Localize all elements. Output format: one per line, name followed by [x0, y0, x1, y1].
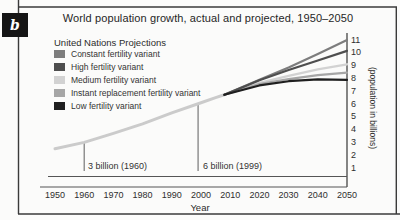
legend-swatch-icon	[54, 76, 65, 84]
legend-item-label: Medium fertility variant	[71, 75, 156, 85]
x-axis-title: Year	[170, 202, 230, 213]
y-tick-label: 8	[351, 73, 356, 83]
y-tick-label: 6	[351, 99, 356, 109]
y-tick-label: 7	[351, 86, 356, 96]
series-line-2	[224, 51, 347, 95]
legend-item-label: Constant fertility variant	[71, 49, 160, 59]
legend-item-high-fertility: High fertility variant	[54, 62, 143, 71]
legend-swatch-icon	[54, 63, 65, 71]
legend-item-constant-fertility: Constant fertility variant	[54, 49, 160, 58]
y-tick-label: 4	[351, 124, 356, 134]
y-axis-title: (population in billions)	[368, 33, 378, 183]
legend-item-low-fertility: Low fertility variant	[54, 101, 141, 110]
legend-item-medium-fertility: Medium fertility variant	[54, 75, 156, 84]
y-tick-label: 10	[351, 47, 361, 57]
legend-item-label: High fertility variant	[71, 62, 143, 72]
legend-title: United Nations Projections	[54, 37, 166, 48]
y-tick-label: 1	[351, 163, 356, 173]
y-tick-label: 2	[351, 150, 356, 160]
figure-panel: b World population growth, actual and pr…	[0, 0, 400, 220]
y-tick-label: 5	[351, 111, 356, 121]
legend-item-label: Instant replacement fertility variant	[71, 88, 200, 98]
legend-swatch-icon	[54, 102, 65, 110]
y-tick-label: 9	[351, 60, 356, 70]
x-tick-label: 2050	[330, 190, 364, 200]
chart-canvas	[0, 0, 400, 220]
legend-swatch-icon	[54, 89, 65, 97]
y-tick-label: 11	[351, 35, 360, 45]
panel-label-badge: b	[2, 13, 28, 37]
legend-item-label: Low fertility variant	[71, 101, 141, 111]
legend-swatch-icon	[54, 50, 65, 58]
legend-item-instant-replacement-fertility: Instant replacement fertility variant	[54, 88, 200, 97]
y-tick-label: 3	[351, 137, 356, 147]
chart-title: World population growth, actual and proj…	[38, 12, 378, 24]
annotation-3-billion: 3 billion (1960)	[88, 161, 147, 171]
annotation-6-billion: 6 billion (1999)	[203, 161, 262, 171]
